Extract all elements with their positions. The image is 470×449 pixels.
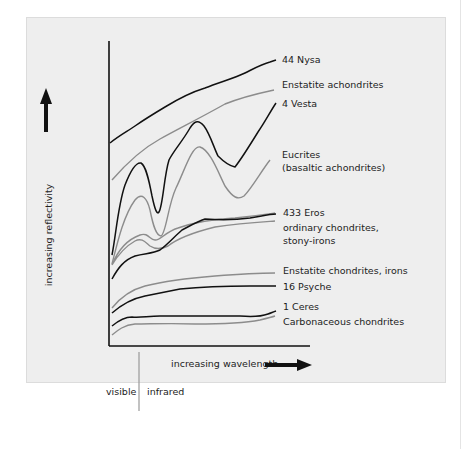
figure-panel (27, 18, 446, 383)
visible-label: visible (106, 386, 137, 397)
label-carbonaceous-chondrites: Carbonaceous chondrites (283, 316, 404, 327)
spectra: increasing reflectivity increasing wavel… (0, 0, 470, 449)
page-divider (460, 0, 461, 449)
infrared-label: infrared (147, 386, 184, 397)
label-ordinary-chondrites-line1: ordinary chondrites, (283, 222, 379, 233)
label-enstatite-achondrites: Enstatite achondrites (282, 79, 384, 90)
label-16-psyche: 16 Psyche (283, 281, 331, 292)
label-4-vesta: 4 Vesta (282, 98, 317, 109)
label-eucrites-line1: Eucrites (282, 149, 320, 160)
label-44-nysa: 44 Nysa (282, 54, 321, 65)
y-axis-label: increasing reflectivity (43, 183, 54, 286)
label-ordinary-chondrites-line2: stony-irons (283, 235, 336, 246)
label-433-eros: 433 Eros (283, 207, 325, 218)
x-axis-label: increasing wavelength (171, 358, 278, 369)
label-eucrites-line2: (basaltic achondrites) (282, 162, 385, 173)
label-1-ceres: 1 Ceres (283, 301, 319, 312)
label-enstatite-chondrites: Enstatite chondrites, irons (283, 265, 408, 276)
